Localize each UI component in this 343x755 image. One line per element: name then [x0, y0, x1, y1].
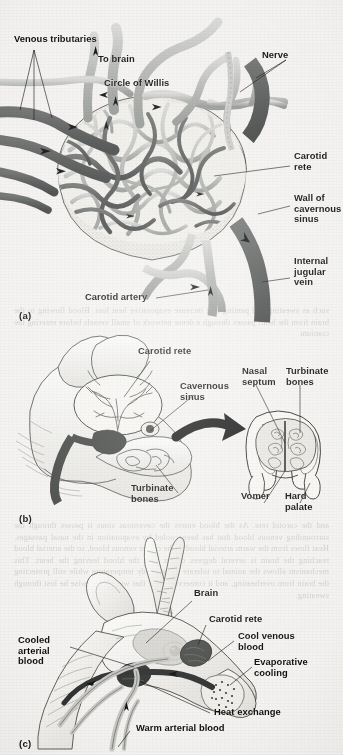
- label-turbinate-bones-right: Turbinate bones: [286, 366, 328, 387]
- label-internal-jugular-vein: Internal jugular vein: [294, 256, 328, 288]
- label-hard-palate: Hard palate: [285, 491, 312, 512]
- label-venous-tributaries: Venous tributaries: [14, 34, 97, 45]
- label-warm-arterial-blood: Warm arterial blood: [136, 723, 225, 734]
- label-cavernous-sinus: Cavernous sinus: [180, 381, 229, 402]
- label-carotid-rete-c: Carotid rete: [209, 614, 262, 625]
- label-cooled-arterial-blood: Cooled arterial blood: [18, 635, 50, 667]
- label-nasal-septum: Nasal septum: [242, 366, 276, 387]
- label-wall-of-cavernous-sinus: Wall of cavernous sinus: [294, 193, 341, 225]
- label-heat-exchange: Heat exchange: [214, 707, 281, 718]
- transition-arrow: [176, 413, 246, 441]
- label-to-brain: To brain: [98, 54, 135, 65]
- label-circle-of-willis: Circle of Willis: [104, 78, 169, 89]
- label-vomer: Vomer: [241, 491, 270, 502]
- panel-id-c: (c): [19, 738, 31, 749]
- label-nerve: Nerve: [262, 50, 288, 61]
- panel-id-b: (b): [19, 513, 32, 524]
- label-cool-venous-blood: Cool venous blood: [238, 631, 295, 652]
- panel-a-illustration: [0, 0, 343, 320]
- label-carotid-artery-a: Carotid artery: [85, 292, 147, 303]
- panel-id-a: (a): [19, 310, 31, 321]
- neck-c: [38, 631, 124, 749]
- eye: [141, 422, 159, 436]
- label-carotid-rete-b: Carotid rete: [138, 346, 191, 357]
- label-turbinate-bones-left: Turbinate bones: [131, 483, 173, 504]
- figure-page: such as sweating and panting that increa…: [0, 0, 343, 755]
- nasal-cross-section: [246, 411, 320, 499]
- label-carotid-rete-a: Carotid rete: [294, 151, 327, 172]
- label-evaporative-cooling: Evaporative cooling: [254, 657, 308, 678]
- label-brain-c: Brain: [194, 588, 218, 599]
